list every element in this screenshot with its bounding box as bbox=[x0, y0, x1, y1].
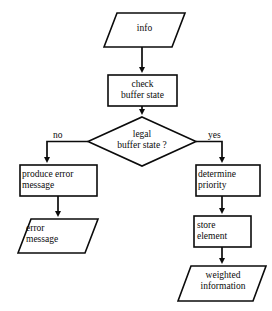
node-shape-produce-error-message[interactable] bbox=[20, 165, 97, 196]
flowchart-canvas: info checkbuffer state legalbuffer state… bbox=[0, 0, 272, 311]
edge-decision-to-produce-error bbox=[47, 142, 88, 161]
node-shape-store-element[interactable] bbox=[194, 216, 251, 247]
node-shape-check-buffer-state[interactable] bbox=[108, 75, 177, 106]
node-shape-info[interactable] bbox=[104, 13, 185, 47]
flowchart-shapes bbox=[0, 0, 272, 311]
node-shape-error-message[interactable] bbox=[18, 219, 98, 253]
node-shape-weighted-information[interactable] bbox=[178, 266, 266, 301]
node-shape-legal-buffer-state[interactable] bbox=[88, 117, 196, 166]
node-shape-determine-priority[interactable] bbox=[196, 165, 260, 196]
edge-decision-to-determine-priority bbox=[196, 142, 222, 161]
